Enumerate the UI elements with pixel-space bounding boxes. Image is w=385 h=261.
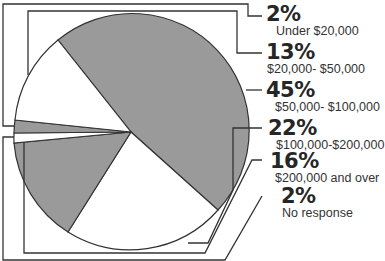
pct-50k-100k: 45% xyxy=(266,80,380,100)
label-50k-100k: 45% $50,000- $100,000 xyxy=(266,80,380,114)
desc-50k-100k: $50,000- $100,000 xyxy=(275,100,380,114)
desc-20k-50k: $20,000- $50,000 xyxy=(267,62,365,76)
desc-under-20k: Under $20,000 xyxy=(276,24,359,38)
pct-20k-50k: 13% xyxy=(266,42,365,62)
desc-no-response: No response xyxy=(282,206,353,220)
pct-under-20k: 2% xyxy=(266,4,359,24)
label-no-response: 2% No response xyxy=(281,186,353,220)
pct-no-response: 2% xyxy=(281,186,353,206)
pct-200k-over: 16% xyxy=(270,151,379,171)
label-100k-200k: 22% $100,000-$200,000 xyxy=(268,118,384,152)
pct-100k-200k: 22% xyxy=(268,118,384,138)
desc-200k-over: $200,000 and over xyxy=(275,171,379,185)
label-200k-over: 16% $200,000 and over xyxy=(270,151,379,185)
label-20k-50k: 13% $20,000- $50,000 xyxy=(266,42,365,76)
label-under-20k: 2% Under $20,000 xyxy=(266,4,359,38)
